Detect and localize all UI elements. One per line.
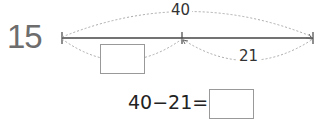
unknown-part-box[interactable] <box>100 44 145 74</box>
answer-box[interactable] <box>209 89 254 119</box>
total-label: 40 <box>169 1 192 19</box>
problem-number: 15 <box>7 18 42 56</box>
equation-expression: 40−21= <box>128 91 208 113</box>
arrowhead-icon <box>306 34 312 39</box>
known-part-label: 21 <box>237 47 260 65</box>
